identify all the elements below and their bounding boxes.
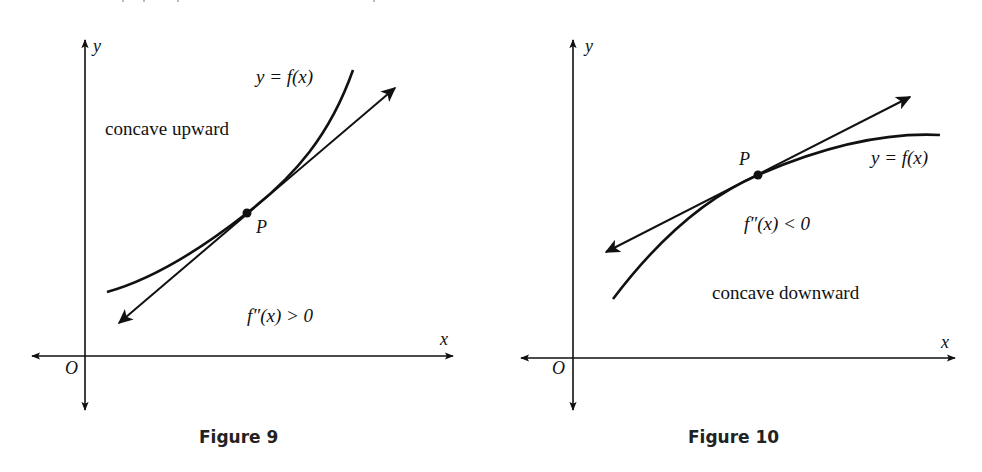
point-label: P [738, 149, 750, 169]
concavity-label: concave downward [712, 282, 860, 303]
cropped-text-remnant [122, 0, 375, 2]
concavity-label: concave upward [105, 118, 229, 139]
point-p-dot [754, 171, 763, 180]
origin-label: O [65, 358, 78, 378]
point-label: P [255, 217, 267, 237]
x-axis-label: x [940, 332, 949, 352]
curve-label: y = f(x) [254, 66, 313, 88]
figure-9: y x O y = f(x) concave upward P f″(x) > … [32, 36, 453, 447]
y-axis-label: y [91, 36, 101, 56]
curve-label: y = f(x) [869, 147, 928, 169]
figure-caption: Figure 10 [688, 427, 779, 447]
condition-label: f″(x) < 0 [744, 213, 811, 235]
x-axis-label: x [439, 329, 448, 349]
point-p-dot [243, 209, 252, 218]
figures-canvas: y x O y = f(x) concave upward P f″(x) > … [0, 0, 982, 472]
condition-label: f″(x) > 0 [247, 305, 314, 327]
y-axis-label: y [583, 36, 593, 56]
curve-concave-up [107, 70, 353, 292]
figure-10: y x O P y = f(x) f″(x) < 0 concave downw… [521, 36, 955, 447]
origin-label: O [552, 358, 565, 378]
figure-caption: Figure 9 [199, 427, 278, 447]
